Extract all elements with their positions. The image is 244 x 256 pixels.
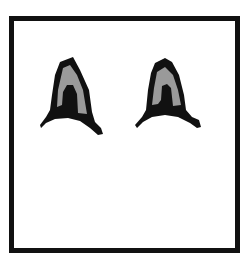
left-ear [40,57,103,135]
ears-drawing [0,0,244,256]
right-ear-outline [135,58,201,128]
right-ear [135,58,201,128]
